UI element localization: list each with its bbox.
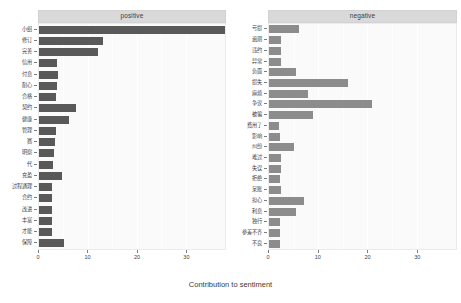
y-axis-tick-label: 才能 (22, 227, 32, 235)
bar-row (39, 127, 225, 135)
facet-strip-negative: negative (268, 10, 457, 23)
y-axis-tick-mark (264, 200, 267, 201)
x-axis-negative: 0102030 (268, 250, 457, 268)
bar (269, 111, 313, 119)
bar-row (269, 143, 456, 151)
bar (269, 175, 280, 183)
bar-row (269, 133, 456, 141)
y-axis-tick-mark (264, 82, 267, 83)
bar-row (39, 239, 225, 247)
y-axis-tick-mark (34, 96, 37, 97)
bar-row (269, 240, 456, 248)
bar (39, 161, 53, 169)
y-axis-tick-mark (264, 189, 267, 190)
y-axis-tick-mark (264, 93, 267, 94)
bar-row (269, 79, 456, 87)
x-axis-tick-label: 30 (414, 254, 420, 260)
y-axis-tick-mark (264, 221, 267, 222)
bar-row (39, 161, 225, 169)
y-axis-tick-label: 亏损 (252, 24, 262, 32)
x-axis-tick-label: 30 (183, 254, 189, 260)
y-axis-tick-label: 失误 (252, 164, 262, 172)
y-axis-tick-mark (264, 28, 267, 29)
bar-row (39, 59, 225, 67)
y-axis-tick-mark (264, 50, 267, 51)
y-axis-tick-label: 逾期 (252, 35, 262, 43)
y-axis-tick-label: 信用 (22, 58, 32, 66)
bar-row (269, 197, 456, 205)
y-axis-tick-label: 纠纷 (252, 142, 262, 150)
bar (39, 93, 56, 101)
y-axis-tick-label: 代 (27, 160, 32, 168)
y-axis-tick-mark (34, 220, 37, 221)
y-axis-tick-label: 负面 (252, 67, 262, 75)
y-axis-tick-mark (34, 242, 37, 243)
bar (269, 58, 281, 66)
bar (39, 194, 52, 202)
y-axis-tick-mark (264, 136, 267, 137)
x-axis-tick-mark (87, 250, 88, 253)
bar-row (39, 26, 225, 34)
y-axis-tick-label: 健康 (22, 115, 32, 123)
facet-strip-label-positive: positive (121, 13, 144, 20)
bar (39, 172, 62, 180)
x-axis-tick-label: 20 (134, 254, 140, 260)
bar (39, 127, 56, 135)
bar-row (39, 93, 225, 101)
facet-panels: positive 小组修订完善信用付息耐心合格契约健康管理赛明察代充盈过程通理合… (0, 10, 461, 268)
bar-row (269, 58, 456, 66)
bar (39, 37, 103, 45)
bar-row (39, 206, 225, 214)
bar-row (269, 154, 456, 162)
bar (269, 186, 281, 194)
y-axis-tick-mark (34, 51, 37, 52)
y-axis-tick-mark (34, 197, 37, 198)
x-axis-tick-mark (367, 250, 368, 253)
x-axis-tick-label: 10 (315, 254, 321, 260)
x-axis-tick-label: 0 (36, 254, 39, 260)
bar (39, 228, 52, 236)
y-axis-tick-label: 不良 (252, 239, 262, 247)
y-axis-tick-mark (264, 39, 267, 40)
bar-row (269, 90, 456, 98)
facet-panel-negative: negative 亏损逾期违约异常负面损失麻烦争议被骗费用了影响纠纷难过失误拒绝… (230, 10, 461, 268)
y-axis-tick-mark (34, 164, 37, 165)
plot-canvas-negative (268, 23, 457, 250)
y-axis-negative: 亏损逾期违约异常负面损失麻烦争议被骗费用了影响纠纷难过失误拒绝呆账担心利息独行参… (230, 23, 268, 250)
bar (39, 48, 98, 56)
y-axis-tick-mark (34, 107, 37, 108)
x-axis-tick-mark (268, 250, 269, 253)
y-axis-positive: 小组修订完善信用付息耐心合格契约健康管理赛明察代充盈过程通理合约改进丰富才能保障 (0, 23, 38, 250)
bar-row (269, 175, 456, 183)
y-axis-tick-mark (264, 178, 267, 179)
y-axis-tick-label: 独行 (252, 217, 262, 225)
bar (39, 82, 57, 90)
y-axis-tick-label: 参差不齐 (242, 228, 262, 236)
y-axis-tick-label: 完善 (22, 47, 32, 55)
bar-row (269, 229, 456, 237)
y-axis-tick-mark (34, 40, 37, 41)
bar (39, 217, 52, 225)
y-axis-tick-label: 麻烦 (252, 89, 262, 97)
y-axis-tick-label: 呆账 (252, 185, 262, 193)
y-axis-tick-label: 拒绝 (252, 174, 262, 182)
y-axis-tick-label: 改进 (22, 205, 32, 213)
y-axis-tick-mark (34, 130, 37, 131)
y-axis-tick-mark (34, 209, 37, 210)
x-axis-tick-label: 0 (266, 254, 269, 260)
facet-strip-label-negative: negative (350, 13, 375, 20)
plot-area-positive: 小组修订完善信用付息耐心合格契约健康管理赛明察代充盈过程通理合约改进丰富才能保障 (0, 23, 230, 250)
y-axis-tick-mark (264, 146, 267, 147)
bar (269, 154, 281, 162)
bar-row (39, 48, 225, 56)
bar-row (269, 122, 456, 130)
bar-row (269, 25, 456, 33)
facet-strip-positive: positive (38, 10, 226, 23)
y-axis-tick-label: 契约 (22, 103, 32, 111)
bar-row (39, 138, 225, 146)
bar (39, 26, 225, 34)
bar (269, 47, 281, 55)
bar (269, 122, 279, 130)
y-axis-tick-mark (34, 62, 37, 63)
bar (269, 165, 281, 173)
